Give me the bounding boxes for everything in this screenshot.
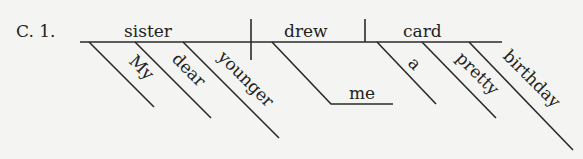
modifier-dear: dear	[168, 49, 210, 91]
modifier-line-a	[377, 42, 436, 104]
modifier-birthday: birthday	[499, 46, 565, 112]
verb-word: drew	[284, 21, 328, 41]
direct-object-word: card	[403, 21, 442, 41]
subject-word: sister	[124, 21, 173, 41]
modifier-my: My	[125, 51, 159, 85]
modifier-pretty: pretty	[452, 48, 503, 99]
modifier-younger: younger	[213, 46, 279, 112]
indirect-object-word: me	[349, 83, 375, 103]
sentence-diagram: C. 1. sister drew card My dear younger m…	[0, 0, 583, 159]
problem-label: C. 1.	[16, 21, 55, 41]
modifier-a: a	[404, 53, 425, 74]
